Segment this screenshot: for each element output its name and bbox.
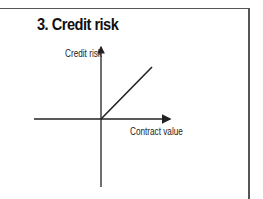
credit-risk-diagram [0,0,263,199]
y-axis-label: Credit risk [65,48,102,59]
x-axis-label: Contract value [130,126,183,137]
credit-risk-line [101,67,152,119]
